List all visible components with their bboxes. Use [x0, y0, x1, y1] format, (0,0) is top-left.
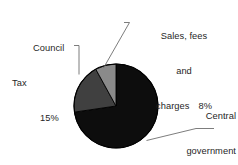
pie-label-council-tax-line1: Council	[12, 43, 84, 55]
pie-label-council-tax-value: 15%	[12, 113, 84, 125]
pie-chart: Council Tax 15% Sales, fees and charges8…	[0, 0, 238, 165]
pie-label-central-government-line2: government	[168, 146, 236, 158]
pie-label-sales-fees-charges-line1: Sales, fees	[134, 31, 234, 43]
leader-line-sales-fees-charges	[104, 23, 130, 69]
pie-label-sales-fees-charges-line2: and	[134, 66, 234, 78]
pie-label-council-tax: Council Tax 15%	[12, 20, 84, 148]
pie-label-central-government-line1: Central	[168, 111, 236, 123]
pie-label-central-government: Central government 77%	[168, 88, 236, 165]
pie-label-council-tax-line2: Tax	[12, 78, 84, 90]
